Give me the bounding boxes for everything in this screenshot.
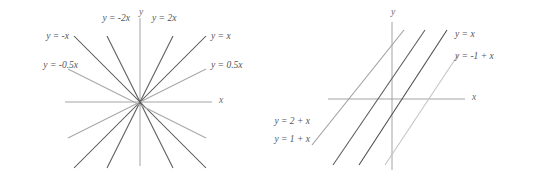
function-label-5: y = -0.5x <box>42 60 78 70</box>
function-line-2 <box>359 30 447 165</box>
function-label-4: y = -x <box>45 31 70 41</box>
x-axis-label: x <box>218 95 224 105</box>
function-line-1 <box>333 30 425 165</box>
linear-functions-figure: y = 2xy = xy = 0.5xy = -2xy = -xy = -0.5… <box>0 0 535 177</box>
y-axis-label: y <box>390 7 396 17</box>
function-label-3: y = -2x <box>101 13 130 23</box>
function-label-1: y = 1 + x <box>273 134 310 144</box>
function-line-3 <box>385 55 458 165</box>
function-label-2: y = x <box>454 29 475 39</box>
y-axis-label: y <box>138 7 144 17</box>
figure-canvas: y = 2xy = xy = 0.5xy = -2xy = -xy = -0.5… <box>0 0 535 177</box>
function-label-3: y = -1 + x <box>454 51 494 61</box>
chart-parallel-lines-intercepts: y = 2 + xy = 1 + xy = xy = -1 + xxy <box>273 7 494 170</box>
chart-slopes-through-origin: y = 2xy = xy = 0.5xy = -2xy = -xy = -0.5… <box>42 7 243 168</box>
function-label-0: y = 2 + x <box>273 116 310 126</box>
function-label-0: y = 2x <box>151 13 177 23</box>
function-label-2: y = 0.5x <box>210 60 243 70</box>
function-label-1: y = x <box>210 31 231 41</box>
x-axis-label: x <box>471 92 477 102</box>
